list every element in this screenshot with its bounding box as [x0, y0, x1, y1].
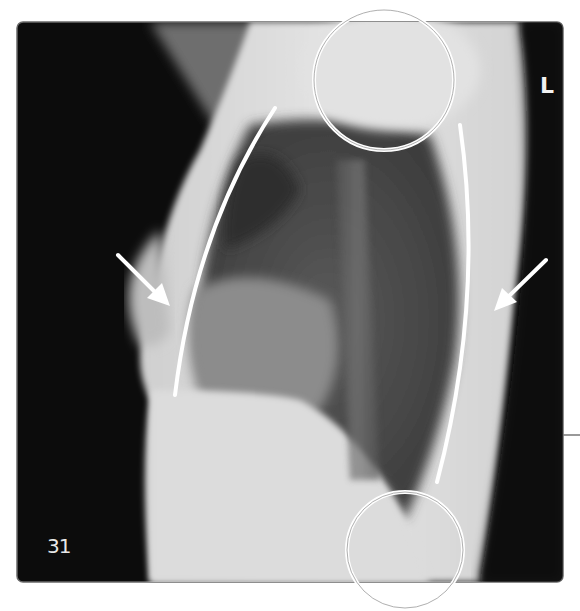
figure-number: 31: [47, 534, 70, 558]
side-marker-label: L: [540, 73, 554, 98]
xray-figure: L 31: [0, 0, 580, 611]
xray-image: [0, 0, 580, 611]
